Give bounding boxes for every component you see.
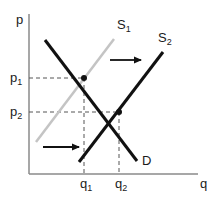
equilibrium-point-2 [116, 109, 122, 115]
q2-label: q2 [115, 176, 127, 193]
y-axis-label: p [16, 12, 23, 27]
q1-label: q1 [80, 176, 92, 193]
p1-label: p1 [10, 70, 22, 87]
demand-curve [45, 40, 137, 161]
s2-label: S2 [158, 30, 172, 47]
supply-demand-diagram: p q p1 p2 q1 q2 S1 S2 D [0, 0, 221, 201]
s1-label: S1 [117, 17, 131, 34]
p2-label: p2 [10, 104, 22, 121]
supply-curve-s1 [36, 39, 114, 142]
demand-label: D [142, 153, 151, 168]
x-axis-label: q [200, 176, 207, 191]
equilibrium-point-1 [81, 75, 87, 81]
